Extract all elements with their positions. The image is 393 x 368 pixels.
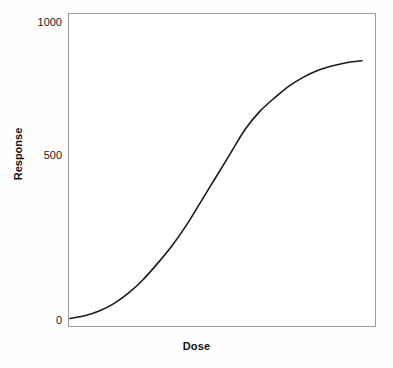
dose-response-chart: 1000 500 0 Response Dose <box>0 0 393 368</box>
y-tick-label-1000: 1000 <box>38 17 62 28</box>
y-axis-title: Response <box>12 114 24 194</box>
y-tick-label-500: 500 <box>44 150 62 161</box>
dose-response-curve <box>70 61 362 319</box>
curve-layer <box>68 13 376 327</box>
x-axis-title: Dose <box>0 340 393 352</box>
y-tick-label-0: 0 <box>56 315 62 326</box>
